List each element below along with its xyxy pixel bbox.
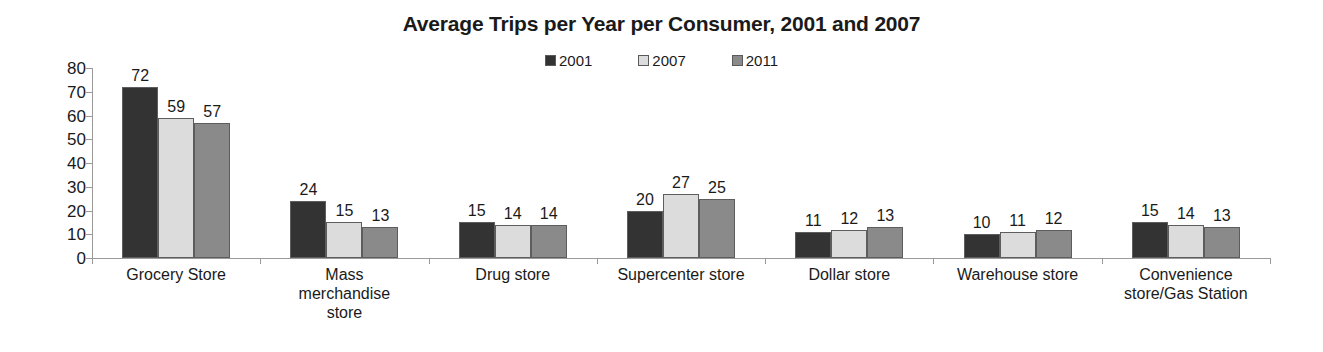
category-label-line: Supercenter store: [617, 266, 744, 285]
bar-value-label: 11: [805, 213, 822, 229]
bar: [964, 234, 1000, 258]
category-label-line: store/Gas Station: [1124, 285, 1248, 304]
bar: [1168, 225, 1204, 258]
bar-value-label: 13: [876, 208, 894, 224]
bar-value-label: 14: [1177, 206, 1195, 222]
category-label-line: Convenience: [1124, 266, 1248, 285]
bar-value-label: 11: [1009, 213, 1026, 229]
bar-value-label: 13: [372, 208, 390, 224]
bar: [795, 232, 831, 258]
category-label-line: Grocery Store: [126, 266, 226, 285]
category-label-line: Dollar store: [808, 266, 890, 285]
bar-value-label: 13: [1213, 208, 1231, 224]
category-label-line: Mass: [299, 266, 391, 285]
bar: [326, 222, 362, 258]
bar: [158, 118, 194, 258]
bar: [362, 227, 398, 258]
bar-value-label: 20: [636, 192, 654, 208]
category-label-line: store: [299, 304, 391, 323]
bar-value-label: 14: [504, 206, 522, 222]
x-axis-category-label: Supercenter store: [617, 266, 744, 285]
bar-value-label: 10: [973, 215, 991, 231]
x-axis-category-label: Conveniencestore/Gas Station: [1124, 266, 1248, 304]
bar-value-label: 27: [672, 175, 690, 191]
bar: [831, 230, 867, 259]
bar: [867, 227, 903, 258]
category-label-line: Drug store: [475, 266, 550, 285]
bar-value-label: 57: [203, 104, 221, 120]
bar: [1000, 232, 1036, 258]
x-axis-category-label: Massmerchandisestore: [299, 266, 391, 323]
bar-value-label: 15: [468, 203, 486, 219]
bar: [1204, 227, 1240, 258]
bar: [699, 199, 735, 258]
bar: [1036, 230, 1072, 259]
bar: [290, 201, 326, 258]
bar-value-label: 12: [1045, 211, 1063, 227]
bar: [194, 123, 230, 258]
category-label-line: Warehouse store: [957, 266, 1078, 285]
bar-value-label: 14: [540, 206, 558, 222]
category-label-line: merchandise: [299, 285, 391, 304]
bar-value-label: 24: [300, 182, 318, 198]
bar-value-label: 72: [131, 68, 149, 84]
x-axis-category-label: Grocery Store: [126, 266, 226, 285]
bar-value-label: 59: [167, 99, 185, 115]
bar: [495, 225, 531, 258]
bar-value-label: 25: [708, 180, 726, 196]
bar: [663, 194, 699, 258]
x-axis-category-label: Dollar store: [808, 266, 890, 285]
x-axis-category-label: Drug store: [475, 266, 550, 285]
bar: [1132, 222, 1168, 258]
bar: [627, 211, 663, 259]
bar-value-label: 15: [336, 203, 354, 219]
bar-value-label: 15: [1141, 203, 1159, 219]
bar: [122, 87, 158, 258]
bar-value-label: 12: [840, 211, 858, 227]
chart-container: Average Trips per Year per Consumer, 200…: [0, 0, 1323, 352]
bar: [531, 225, 567, 258]
x-axis-category-label: Warehouse store: [957, 266, 1078, 285]
bar: [459, 222, 495, 258]
